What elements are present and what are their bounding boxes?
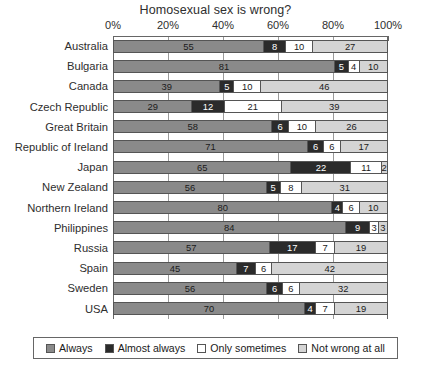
legend-item[interactable]: Almost always [105, 342, 186, 354]
bar-segment-value: 32 [338, 283, 348, 294]
bar-segment-value: 10 [242, 81, 252, 92]
stacked-bar: 5861026 [113, 120, 388, 133]
bar-segment: 6 [324, 141, 340, 152]
bar-segment: 4 [305, 303, 316, 314]
bar-segment-value: 4 [351, 61, 356, 72]
bar-row: Russia5717719 [0, 238, 431, 258]
legend-item[interactable]: Only sometimes [197, 342, 286, 354]
bar-segment-value: 17 [359, 141, 369, 152]
bar-segment-value: 9 [355, 222, 360, 233]
legend-label: Not wrong at all [311, 342, 385, 354]
bar-segment-value: 6 [261, 263, 266, 274]
bar-segment: 3 [370, 222, 378, 233]
bar-segment: 71 [114, 141, 308, 152]
bar-segment: 55 [114, 41, 264, 52]
bar-segment: 5 [267, 182, 281, 193]
bar-segment: 6 [343, 202, 359, 213]
bar-segment: 11 [351, 162, 381, 173]
bar-segment: 27 [313, 41, 387, 52]
bar-segment: 6 [272, 121, 288, 132]
bar-segment: 2 [382, 162, 387, 173]
stacked-bar: 5717719 [113, 241, 388, 254]
bar-segment: 6 [308, 141, 324, 152]
legend-label: Only sometimes [210, 342, 286, 354]
stacked-bar: 29122139 [113, 100, 388, 113]
bar-segment-value: 5 [339, 61, 344, 72]
bar-segment: 7 [237, 263, 256, 274]
bar-segment-value: 4 [307, 303, 312, 314]
stacked-bar: 704719 [113, 302, 388, 315]
bar-segment-value: 45 [170, 263, 180, 274]
bar-segment-value: 12 [203, 101, 213, 112]
bar-segment-value: 5 [224, 81, 229, 92]
bar-segment-value: 6 [277, 121, 282, 132]
x-axis-tick-label: 80% [322, 19, 344, 31]
bar-segment: 7 [316, 242, 335, 253]
bar-segment: 9 [346, 222, 371, 233]
bar-segment: 10 [234, 81, 261, 92]
bar-segment: 58 [114, 121, 272, 132]
bar-segment-value: 65 [197, 162, 207, 173]
bar-segment-value: 3 [380, 222, 385, 233]
legend-item[interactable]: Always [46, 342, 93, 354]
bar-segment: 5 [335, 61, 349, 72]
bar-row-label: Republic of Ireland [0, 141, 108, 153]
bar-segment: 65 [114, 162, 291, 173]
bar-segment: 6 [256, 263, 272, 274]
bar-row-label: Spain [0, 262, 108, 274]
bar-segment: 10 [289, 121, 316, 132]
legend-label: Always [59, 342, 93, 354]
bar-segment-value: 42 [324, 263, 334, 274]
legend-item[interactable]: Not wrong at all [298, 342, 385, 354]
legend-swatch-icon [105, 344, 114, 353]
bar-segment: 45 [114, 263, 237, 274]
bar-segment: 42 [272, 263, 387, 274]
bar-rows: Australia5581027Bulgaria815410Canada3951… [0, 36, 431, 319]
bar-segment-value: 7 [322, 242, 327, 253]
bar-row-label: USA [0, 303, 108, 315]
bar-segment-value: 27 [345, 41, 355, 52]
bar-segment-value: 56 [185, 182, 195, 193]
bar-segment-value: 22 [316, 162, 326, 173]
bar-row: New Zealand565831 [0, 177, 431, 197]
bar-segment-value: 57 [186, 242, 196, 253]
bar-segment-value: 80 [217, 202, 227, 213]
bar-row-label: Japan [0, 161, 108, 173]
bar-segment-value: 58 [187, 121, 197, 132]
bar-segment-value: 29 [147, 101, 157, 112]
bar-segment: 84 [114, 222, 346, 233]
bar-segment-value: 56 [185, 283, 195, 294]
bar-segment-value: 10 [294, 41, 304, 52]
stacked-bar: 5581027 [113, 40, 388, 53]
bar-segment-value: 8 [272, 41, 277, 52]
x-axis-tick-label: 100% [374, 19, 402, 31]
bar-segment-value: 70 [204, 303, 214, 314]
bar-segment-value: 7 [243, 263, 248, 274]
bar-segment-value: 11 [361, 162, 371, 173]
stacked-bar: 565831 [113, 181, 388, 194]
bar-row: Bulgaria815410 [0, 56, 431, 76]
bar-row: Australia5581027 [0, 36, 431, 56]
bar-row-label: New Zealand [0, 181, 108, 193]
bar-row: Czech Republic29122139 [0, 97, 431, 117]
bar-segment: 70 [114, 303, 305, 314]
stacked-bar-chart: Homosexual sex is wrong? 0%20%40%60%80%1… [0, 0, 431, 372]
bar-segment-value: 39 [329, 101, 339, 112]
bar-segment: 46 [261, 81, 387, 92]
bar-segment-value: 19 [356, 303, 366, 314]
bar-segment: 10 [360, 202, 387, 213]
stacked-bar: 457642 [113, 262, 388, 275]
bar-segment: 81 [114, 61, 335, 72]
bar-segment: 10 [286, 41, 313, 52]
bar-segment: 3 [379, 222, 387, 233]
bar-segment-value: 55 [183, 41, 193, 52]
bar-segment: 22 [291, 162, 351, 173]
bar-segment-value: 31 [339, 182, 349, 193]
bar-segment-value: 10 [368, 61, 378, 72]
bar-row-label: Canada [0, 80, 108, 92]
bar-row-label: Australia [0, 40, 108, 52]
bar-segment: 39 [282, 101, 387, 112]
bar-segment: 10 [360, 61, 387, 72]
bar-segment: 39 [114, 81, 220, 92]
bar-row: Japan6522112 [0, 157, 431, 177]
